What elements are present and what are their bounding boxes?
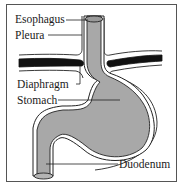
diaphragm-left xyxy=(19,58,84,67)
label-pleura: Pleura xyxy=(15,29,44,41)
stomach-diagram: Esophagus Pleura Diaphragm Stomach Duode… xyxy=(0,0,184,188)
label-stomach: Stomach xyxy=(17,94,57,106)
label-diaphragm: Diaphragm xyxy=(17,78,69,91)
label-esophagus: Esophagus xyxy=(15,13,65,26)
label-duodenum: Duodenum xyxy=(119,158,170,170)
duodenum-opening xyxy=(34,173,53,179)
esophagus-opening xyxy=(85,16,103,22)
